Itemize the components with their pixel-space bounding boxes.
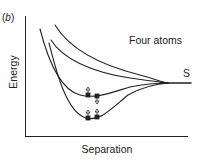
atom-spin-up-icon	[95, 109, 99, 119]
atom-spin-up-icon	[86, 110, 90, 120]
atom-spin-up-icon	[86, 87, 90, 97]
axes	[25, 16, 188, 137]
atom-spin-down-icon	[95, 94, 99, 104]
energy-diagram	[0, 0, 202, 167]
atom-pair-upper-well	[86, 87, 99, 104]
curve-repulsive-lower	[51, 40, 168, 83]
